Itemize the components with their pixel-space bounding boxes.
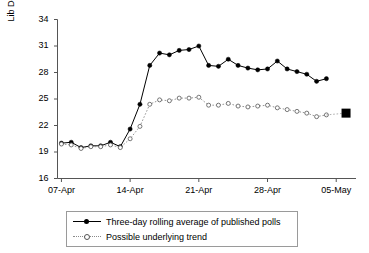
data-point-underlying-trend [59, 142, 63, 146]
data-point-rolling-average [138, 102, 142, 106]
data-point-underlying-trend [79, 146, 83, 150]
data-point-underlying-trend [295, 109, 299, 113]
data-point-rolling-average [197, 44, 201, 48]
legend: Three-day rolling average of published p… [66, 211, 298, 247]
data-point-underlying-trend [69, 143, 73, 147]
data-point-underlying-trend [275, 106, 279, 110]
data-point-rolling-average [148, 63, 152, 67]
election-result-marker [342, 109, 351, 118]
legend-item-rolling-average: Three-day rolling average of published p… [73, 215, 281, 229]
data-point-rolling-average [236, 63, 240, 67]
data-point-rolling-average [167, 53, 171, 57]
data-point-underlying-trend [256, 104, 260, 108]
legend-label-underlying-trend: Possible underlying trend [106, 232, 207, 242]
data-point-rolling-average [295, 70, 299, 74]
legend-marker-open-circle-icon [73, 232, 101, 242]
data-point-rolling-average [226, 57, 230, 61]
data-series [59, 44, 328, 151]
axes [54, 20, 356, 183]
legend-marker-filled-circle-icon [73, 217, 101, 227]
data-point-underlying-trend [305, 111, 309, 115]
data-point-underlying-trend [236, 104, 240, 108]
data-point-underlying-trend [285, 108, 289, 112]
data-point-rolling-average [157, 51, 161, 55]
data-point-underlying-trend [128, 137, 132, 141]
data-point-rolling-average [305, 72, 309, 76]
data-point-rolling-average [177, 48, 181, 52]
data-point-underlying-trend [207, 103, 211, 107]
data-point-rolling-average [256, 68, 260, 72]
data-point-rolling-average [314, 79, 318, 83]
data-point-underlying-trend [89, 145, 93, 149]
data-point-rolling-average [216, 64, 220, 68]
line-underlying-trend [61, 97, 326, 148]
data-point-underlying-trend [108, 143, 112, 147]
data-point-underlying-trend [99, 145, 103, 149]
data-point-underlying-trend [197, 95, 201, 99]
legend-item-underlying-trend: Possible underlying trend [73, 230, 207, 244]
legend-label-rolling-average: Three-day rolling average of published p… [106, 217, 281, 227]
chart-container: Lib Dem share (%) 16192225283134 07-Apr1… [0, 0, 369, 253]
data-point-underlying-trend [118, 146, 122, 150]
data-point-underlying-trend [138, 124, 142, 128]
data-point-rolling-average [187, 47, 191, 51]
data-point-rolling-average [265, 67, 269, 71]
data-point-underlying-trend [216, 103, 220, 107]
data-point-rolling-average [324, 77, 328, 81]
data-point-underlying-trend [315, 115, 319, 119]
data-point-rolling-average [285, 67, 289, 71]
data-point-underlying-trend [148, 102, 152, 106]
data-point-rolling-average [275, 59, 279, 63]
data-point-underlying-trend [167, 99, 171, 103]
data-point-underlying-trend [266, 103, 270, 107]
data-point-underlying-trend [226, 101, 230, 105]
data-point-rolling-average [246, 66, 250, 70]
data-point-underlying-trend [158, 98, 162, 102]
data-point-rolling-average [128, 127, 132, 131]
annotations [326, 109, 350, 118]
data-point-underlying-trend [187, 96, 191, 100]
data-point-underlying-trend [177, 96, 181, 100]
data-point-rolling-average [207, 63, 211, 67]
data-point-underlying-trend [246, 105, 250, 109]
line-rolling-average [61, 46, 326, 148]
